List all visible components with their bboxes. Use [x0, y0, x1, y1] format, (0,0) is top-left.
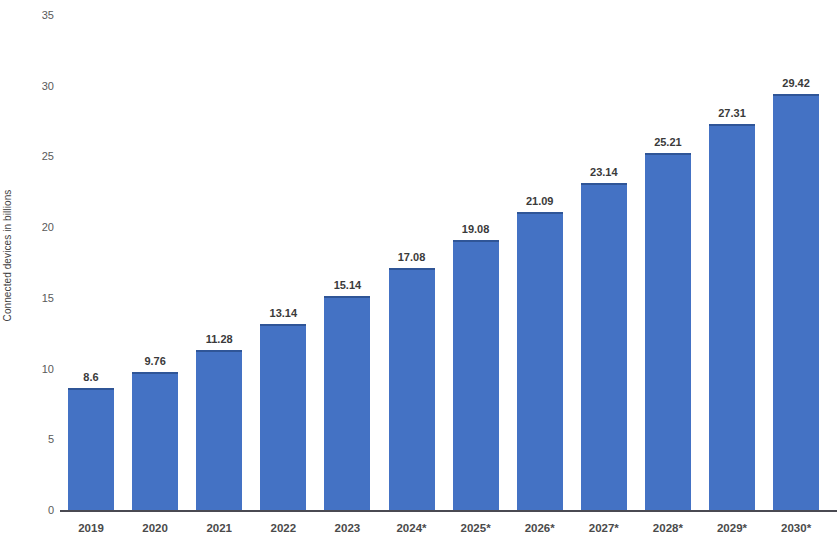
x-axis-tick-label: 2019: [56, 522, 126, 534]
x-axis-tick-label: 2030*: [761, 522, 831, 534]
x-axis-tick-label: 2023: [312, 522, 382, 534]
x-axis-tick-label: 2024*: [377, 522, 447, 534]
x-axis-tick-label: 2021: [184, 522, 254, 534]
x-axis-tick-label: 2020: [120, 522, 190, 534]
x-axis-tick-label: 2028*: [633, 522, 703, 534]
x-axis-tick-label: 2027*: [569, 522, 639, 534]
x-axis-tick-label: 2022: [248, 522, 318, 534]
x-axis-tick-label: 2025*: [441, 522, 511, 534]
x-axis-tick-label: 2029*: [697, 522, 767, 534]
bar-chart: Connected devices in billions 0510152025…: [0, 0, 837, 545]
x-axis-ticks: 201920202021202220232024*2025*2026*2027*…: [0, 0, 837, 545]
x-axis-tick-label: 2026*: [505, 522, 575, 534]
